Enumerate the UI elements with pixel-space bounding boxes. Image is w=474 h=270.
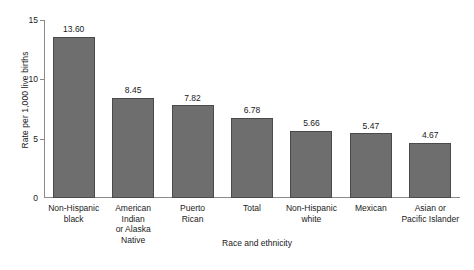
bar-value-label: 6.78 xyxy=(244,106,261,115)
y-axis-tick-label: 0 xyxy=(33,194,38,203)
category-label-line: Non-Hispanic xyxy=(44,203,103,214)
bar-slot: 8.45 xyxy=(103,20,162,198)
bar-slot: 7.82 xyxy=(163,20,222,198)
category-label-line: Asian or xyxy=(401,203,460,214)
category-label-line: Puerto xyxy=(163,203,222,214)
bar-chart: Rate per 1,000 live births 051015 13.608… xyxy=(0,0,474,270)
bar[interactable] xyxy=(231,118,273,198)
category-label-line: white xyxy=(282,214,341,225)
x-axis-category-label: Non-Hispanicblack xyxy=(44,203,103,224)
y-axis-title: Rate per 1,000 live births xyxy=(20,15,30,185)
bar-value-label: 4.67 xyxy=(422,131,439,140)
plot-area: 051015 13.608.457.826.785.665.474.67 xyxy=(44,20,460,198)
bar-slot: 6.78 xyxy=(222,20,281,198)
y-axis-tick-label: 10 xyxy=(29,75,38,84)
bar-slot: 5.66 xyxy=(282,20,341,198)
y-axis-tick-label: 15 xyxy=(29,16,38,25)
bar[interactable] xyxy=(53,37,95,198)
bar-value-label: 5.47 xyxy=(363,122,380,131)
x-axis-category-label: Mexican xyxy=(341,203,400,214)
category-label-line: Pacific Islander xyxy=(401,214,460,225)
bar[interactable] xyxy=(290,131,332,198)
y-axis-tick-label: 5 xyxy=(33,134,38,143)
x-axis-category-label: Asian orPacific Islander xyxy=(401,203,460,224)
category-label-line: Mexican xyxy=(341,203,400,214)
bar-slot: 4.67 xyxy=(401,20,460,198)
category-label-line: American Indian xyxy=(103,203,162,224)
bar-value-label: 7.82 xyxy=(184,94,201,103)
bar-slot: 13.60 xyxy=(44,20,103,198)
category-label-line: Rican xyxy=(163,214,222,225)
x-axis-title: Race and ethnicity xyxy=(0,238,474,248)
bar[interactable] xyxy=(112,98,154,198)
category-label-line: Total xyxy=(222,203,281,214)
bar-slot: 5.47 xyxy=(341,20,400,198)
x-axis-category-label: Total xyxy=(222,203,281,214)
bar[interactable] xyxy=(172,105,214,198)
x-axis-tick-labels: Non-HispanicblackAmerican Indianor Alask… xyxy=(44,203,460,233)
bar-series: 13.608.457.826.785.665.474.67 xyxy=(44,20,460,198)
bar-value-label: 8.45 xyxy=(125,86,142,95)
category-label-line: black xyxy=(44,214,103,225)
bar-value-label: 13.60 xyxy=(63,25,84,34)
bar-value-label: 5.66 xyxy=(303,119,320,128)
x-axis-category-label: PuertoRican xyxy=(163,203,222,224)
bar[interactable] xyxy=(409,143,451,198)
x-axis-category-label: Non-Hispanicwhite xyxy=(282,203,341,224)
category-label-line: Non-Hispanic xyxy=(282,203,341,214)
bar[interactable] xyxy=(350,133,392,198)
